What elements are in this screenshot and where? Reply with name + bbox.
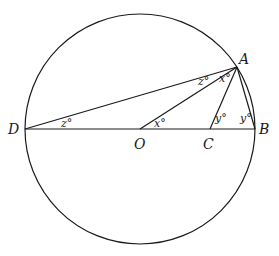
geometry-diagram: A B C D O z° z° x° x° y° y° [0,0,279,256]
point-label-D: D [7,121,19,137]
point-label-C: C [203,136,214,152]
angle-label-x-A: x° [219,72,231,85]
angle-label-y-C: y° [214,112,227,125]
angle-label-y-B: y° [239,112,252,125]
point-label-O: O [134,136,146,152]
angle-label-x-O: x° [154,117,166,130]
point-label-B: B [258,121,269,137]
angle-label-z-A: z° [197,75,209,88]
angle-label-z-D: z° [60,117,72,130]
point-label-A: A [237,51,249,67]
